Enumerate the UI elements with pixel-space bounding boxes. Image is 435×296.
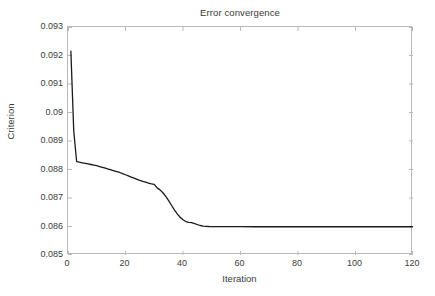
- y-tick-label: 0.089: [40, 135, 63, 145]
- x-tick-label: 60: [234, 258, 244, 268]
- x-tick-label: 40: [177, 258, 187, 268]
- x-tick-label: 80: [292, 258, 302, 268]
- y-tick-label: 0.085: [40, 249, 63, 259]
- y-tick-label: 0.091: [40, 78, 63, 88]
- y-axis-tick-labels: 0.0850.0860.0870.0880.0890.090.0910.0920…: [14, 26, 63, 254]
- x-tick-label: 120: [404, 258, 419, 268]
- plot-svg: [68, 27, 413, 255]
- y-tick-label: 0.086: [40, 221, 63, 231]
- x-tick-label: 0: [64, 258, 69, 268]
- y-tick-label: 0.088: [40, 164, 63, 174]
- data-series-line: [71, 51, 413, 227]
- y-tick-label: 0.092: [40, 50, 63, 60]
- x-axis-tick-labels: 020406080100120: [67, 258, 412, 270]
- x-axis-ticks: [69, 27, 413, 255]
- x-tick-label: 20: [119, 258, 129, 268]
- x-axis-label: Iteration: [67, 273, 412, 284]
- chart-title: Error convergence: [67, 7, 413, 18]
- plot-area: [67, 26, 412, 254]
- y-axis-ticks: [68, 28, 413, 255]
- y-tick-label: 0.09: [45, 107, 63, 117]
- figure-canvas: Error convergence Criterion 0.0850.0860.…: [0, 0, 435, 296]
- y-tick-label: 0.093: [40, 21, 63, 31]
- y-tick-label: 0.087: [40, 192, 63, 202]
- x-tick-label: 100: [347, 258, 362, 268]
